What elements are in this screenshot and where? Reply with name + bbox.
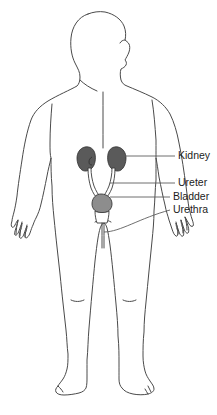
knee-line-left — [71, 300, 84, 302]
right-kidney-organ — [108, 147, 126, 171]
bladder-neck-funnel — [95, 211, 109, 223]
label-urethra: Urethra — [173, 204, 208, 215]
label-bladder: Bladder — [173, 191, 209, 202]
label-ureter: Ureter — [178, 177, 207, 188]
bladder-organ — [92, 194, 112, 213]
knee-line-right — [123, 300, 136, 302]
left-kidney-organ — [77, 147, 95, 171]
anatomy-diagram: Kidney Ureter Bladder Urethra — [0, 0, 217, 415]
label-kidney: Kidney — [178, 150, 210, 161]
